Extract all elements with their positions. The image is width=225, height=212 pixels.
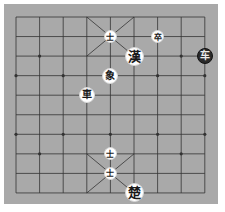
piece-elephant[interactable]: 象 bbox=[102, 68, 118, 84]
piece-label: 士 bbox=[106, 169, 114, 177]
piece-chariot[interactable]: 车 bbox=[197, 48, 213, 64]
piece-label: 漢 bbox=[128, 50, 141, 63]
star-point bbox=[203, 74, 206, 77]
star-point bbox=[156, 74, 159, 77]
piece-label: 車 bbox=[82, 90, 92, 100]
star-point bbox=[14, 133, 17, 136]
star-point bbox=[203, 133, 206, 136]
piece-chariot[interactable]: 車 bbox=[79, 87, 95, 103]
star-point bbox=[14, 74, 17, 77]
star-point bbox=[38, 152, 41, 155]
piece-label: 士 bbox=[106, 150, 114, 158]
piece-label: 楚 bbox=[128, 186, 141, 199]
piece-advisor[interactable]: 士 bbox=[104, 30, 117, 43]
piece-label: 车 bbox=[200, 51, 210, 61]
star-point bbox=[38, 55, 41, 58]
piece-label: 士 bbox=[106, 33, 114, 41]
piece-chu-general[interactable]: 楚 bbox=[125, 183, 144, 202]
piece-han-general[interactable]: 漢 bbox=[125, 47, 144, 66]
piece-label: 象 bbox=[105, 71, 115, 81]
star-point bbox=[62, 74, 65, 77]
xiangqi-board[interactable]: 士卒漢车象車士士楚 bbox=[4, 4, 218, 204]
piece-advisor[interactable]: 士 bbox=[104, 167, 117, 180]
star-point bbox=[180, 152, 183, 155]
star-point bbox=[156, 133, 159, 136]
star-point bbox=[109, 133, 112, 136]
star-point bbox=[62, 133, 65, 136]
piece-label: 卒 bbox=[154, 33, 162, 41]
star-point bbox=[180, 55, 183, 58]
